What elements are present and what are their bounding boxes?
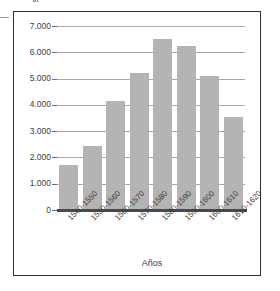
bar <box>177 46 196 210</box>
y-axis-tick-mark <box>52 210 57 211</box>
x-axis-title: Años <box>57 258 247 268</box>
y-axis-tick-mark <box>52 157 57 158</box>
gridline <box>57 26 245 27</box>
y-axis-tick-label: 4.000 <box>5 100 51 109</box>
y-axis-tick-label: 2.000 <box>5 153 51 162</box>
y-axis-tick-mark <box>52 184 57 185</box>
bar <box>153 39 172 210</box>
scan-edge-mark <box>0 17 9 18</box>
y-axis-tick-label: 0 <box>5 206 51 215</box>
y-axis-tick-mark <box>52 79 57 80</box>
y-axis-tick-mark <box>52 52 57 53</box>
figure: Número de causas de fe sentenciadas por … <box>0 0 280 291</box>
y-axis-tick-label: 1.000 <box>5 179 51 188</box>
y-axis-tick-mark <box>52 105 57 106</box>
y-axis-tick-mark <box>52 26 57 27</box>
y-axis-tick-label: 6.000 <box>5 48 51 57</box>
y-axis-tick-mark <box>52 131 57 132</box>
y-axis-tick-label: 3.000 <box>5 127 51 136</box>
y-axis-tick-label: 5.000 <box>5 74 51 83</box>
y-axis-tick-label: 7.000 <box>5 22 51 31</box>
plot-area <box>57 26 245 210</box>
gridline <box>57 52 245 53</box>
bar <box>59 165 78 210</box>
